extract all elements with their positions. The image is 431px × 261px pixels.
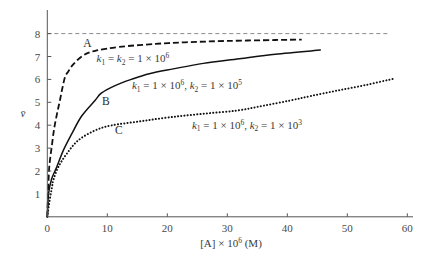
x-axis-title-main: [A] × 10 bbox=[200, 237, 238, 249]
y-tick-label: 3 bbox=[35, 142, 41, 154]
k2-value: = 1 × 10 bbox=[198, 79, 238, 91]
y-tick-label: 2 bbox=[35, 165, 41, 177]
k2-value: = 1 × 10 bbox=[258, 119, 298, 131]
x-tick-label: 20 bbox=[162, 222, 174, 234]
x-tick-label: 50 bbox=[342, 222, 354, 234]
x-axis-title: [A] × 106 (M) bbox=[200, 236, 262, 250]
binding-curve-chart: 010203040506012345678 v̄ [A] × 106 (M) A… bbox=[0, 0, 431, 261]
k2-exponent: 3 bbox=[298, 118, 302, 127]
x-axis-title-unit: (M) bbox=[242, 237, 262, 250]
curve-c-params-label: k1 = 1 × 106, k2 = 1 × 103 bbox=[192, 118, 302, 134]
k1-value: = 1 × 10 bbox=[141, 79, 181, 91]
x-tick-label: 60 bbox=[402, 222, 414, 234]
y-tick-label: 6 bbox=[35, 73, 41, 85]
y-tick-label: 5 bbox=[35, 96, 41, 108]
curve-a-params-label: k1 = k2 = 1 × 106 bbox=[97, 51, 170, 67]
value: = 1 × 10 bbox=[126, 52, 166, 64]
y-axis-title: v̄ bbox=[21, 107, 26, 119]
x-tick-label: 10 bbox=[102, 222, 114, 234]
y-tick-label: 8 bbox=[35, 28, 41, 40]
curve-b-params-label: k1 = 1 × 106, k2 = 1 × 105 bbox=[132, 78, 242, 94]
x-tick-label: 0 bbox=[45, 222, 51, 234]
k1-value: = 1 × 10 bbox=[201, 119, 241, 131]
curve-c-line bbox=[47, 79, 393, 217]
curve-b-letter: B bbox=[102, 95, 110, 107]
curve-c-letter: C bbox=[115, 124, 123, 136]
equals: = bbox=[105, 52, 117, 64]
exponent: 6 bbox=[165, 51, 169, 60]
y-tick-label: 1 bbox=[35, 188, 41, 200]
x-tick-label: 40 bbox=[282, 222, 294, 234]
x-tick-label: 30 bbox=[222, 222, 234, 234]
y-tick-label: 4 bbox=[35, 119, 41, 131]
curve-a-letter: A bbox=[83, 37, 92, 49]
k2-exponent: 5 bbox=[238, 78, 242, 87]
y-tick-label: 7 bbox=[35, 51, 41, 63]
